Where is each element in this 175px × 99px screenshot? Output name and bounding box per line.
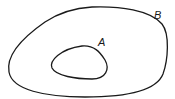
set-b-boundary [9, 7, 168, 97]
set-a-boundary [52, 46, 108, 79]
set-a-label: A [97, 36, 105, 48]
set-b-label: B [154, 9, 161, 21]
venn-diagram: B A [0, 0, 175, 99]
